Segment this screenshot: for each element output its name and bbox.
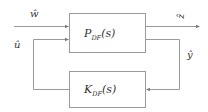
z-output-signal: ẑ [145,13,200,28]
plant-block: PDF(s) [70,14,146,53]
u-signal: û [14,38,69,90]
u-label: û [14,39,20,50]
y-signal: ŷ [145,40,193,92]
controller-block: KDF(s) [70,72,146,108]
y-label: ŷ [186,49,193,60]
arrow-head-icon [196,25,200,28]
w-input-signal: ŵ [14,8,69,28]
arrow-head-icon [65,38,69,41]
arrow-head-icon [146,88,150,91]
w-label: ŵ [30,8,39,19]
arrow-head-icon [65,25,69,28]
z-label: ẑ [175,13,186,20]
block-diagram: PDF(s) KDF(s) ŵ û ẑ ŷ [0,0,208,112]
